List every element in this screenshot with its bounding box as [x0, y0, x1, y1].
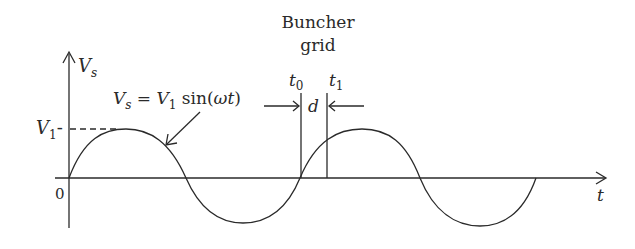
title-line1: Buncher [281, 12, 355, 32]
x-axis-label: t [597, 185, 604, 205]
origin-label: 0 [55, 185, 65, 203]
title-line2: grid [300, 35, 335, 55]
t0-label: t0 [289, 70, 303, 93]
y-axis-label: Vs [78, 55, 97, 80]
equation-pointer-arrow [167, 112, 200, 144]
buncher-grid-diagram: Buncher grid Vs 0 V1- Vs = V1 sin(ωt) t0… [0, 0, 635, 249]
d-gap-label: d [308, 96, 319, 116]
amplitude-label: V1- [36, 117, 63, 142]
t1-label: t1 [329, 70, 343, 93]
sine-equation: Vs = V1 sin(ωt) [113, 88, 241, 112]
